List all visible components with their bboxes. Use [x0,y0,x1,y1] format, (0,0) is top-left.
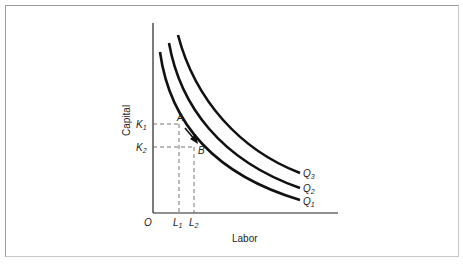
q3-label: Q3 [303,168,315,180]
isoquant-q3 [178,35,300,173]
q1-label: Q1 [303,196,315,208]
origin-label: O [144,217,152,228]
x-axis-label: Labor [232,233,258,244]
point-a-label: A [176,112,184,123]
k1-label: K1 [136,119,147,131]
point-b-label: B [198,145,205,156]
l1-label: L1 [173,217,183,229]
l2-label: L2 [189,217,199,229]
isoquant-diagram: A B K1 K2 L1 L2 O Q3 Q2 Q1 Labor Capital [0,0,463,265]
guide-lines [153,124,194,213]
k2-label: K2 [136,142,147,154]
y-axis-label: Capital [121,105,132,136]
q2-label: Q2 [303,183,315,195]
